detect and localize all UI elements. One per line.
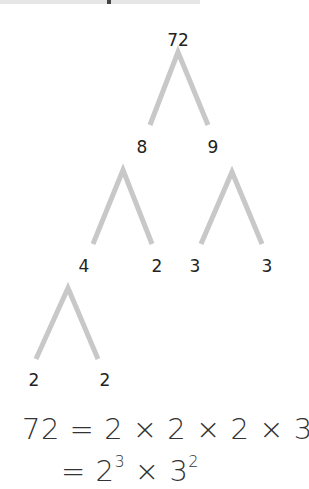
equation-line-2: = 23 × 32	[61, 454, 199, 488]
branch-n4	[36, 288, 98, 359]
tree-node-n4: 4	[79, 258, 90, 275]
eq2-exponent-2: 2	[188, 452, 199, 471]
branch-n8	[93, 170, 152, 244]
equation-line-1: 72 = 2 × 2 × 2 × 3 × 3	[22, 412, 309, 446]
tree-node-n9: 9	[208, 139, 219, 156]
eq2-prefix: = 2	[61, 454, 114, 488]
eq2-exponent-1: 3	[114, 452, 125, 471]
branch-n9	[201, 172, 262, 244]
tree-node-n2b: 2	[29, 372, 40, 389]
tree-node-n3a: 3	[190, 258, 201, 275]
branch-n72	[150, 52, 208, 125]
tree-node-n72: 72	[167, 32, 189, 49]
eq2-mid: × 3	[125, 454, 188, 488]
tree-node-n8: 8	[137, 139, 148, 156]
tree-node-n3b: 3	[262, 258, 273, 275]
tree-node-n2a: 2	[152, 258, 163, 275]
tree-node-n2c: 2	[100, 372, 111, 389]
